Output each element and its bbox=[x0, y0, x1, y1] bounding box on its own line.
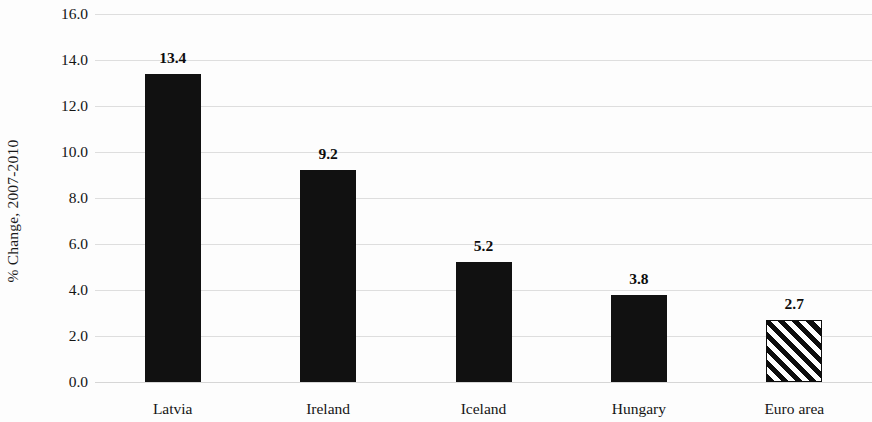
bar[interactable] bbox=[611, 295, 667, 382]
bar-value-label: 3.8 bbox=[589, 270, 689, 288]
y-axis-tick-label: 6.0 bbox=[26, 236, 88, 252]
bar-value-label: 9.2 bbox=[278, 145, 378, 163]
y-axis-tick-label: 2.0 bbox=[26, 328, 88, 344]
bar-group: 2.7Euro area bbox=[766, 0, 822, 422]
x-axis-category-label: Iceland bbox=[416, 400, 552, 418]
bar-group: 5.2Iceland bbox=[456, 0, 512, 422]
y-axis-title: % Change, 2007-2010 bbox=[0, 0, 26, 422]
x-axis-category-label: Latvia bbox=[105, 400, 241, 418]
y-axis-tick-label: 12.0 bbox=[26, 98, 88, 114]
bar-value-label: 5.2 bbox=[434, 237, 534, 255]
bar-chart: % Change, 2007-2010 16.014.012.010.08.06… bbox=[0, 0, 872, 422]
bar-group: 3.8Hungary bbox=[611, 0, 667, 422]
y-axis-tick-labels: 16.014.012.010.08.06.04.02.00.0 bbox=[26, 0, 88, 422]
plot-area: 13.4Latvia9.2Ireland5.2Iceland3.8Hungary… bbox=[95, 0, 872, 422]
y-axis-tick-label: 10.0 bbox=[26, 144, 88, 160]
y-axis-tick-label: 4.0 bbox=[26, 282, 88, 298]
x-axis-category-label: Euro area bbox=[726, 400, 862, 418]
bar-value-label: 2.7 bbox=[744, 295, 844, 313]
y-axis-tick-label: 14.0 bbox=[26, 52, 88, 68]
bar-series: 13.4Latvia9.2Ireland5.2Iceland3.8Hungary… bbox=[95, 0, 872, 422]
bar-value-label: 13.4 bbox=[123, 49, 223, 67]
bar[interactable] bbox=[766, 320, 822, 382]
bar-group: 9.2Ireland bbox=[300, 0, 356, 422]
y-axis-tick-label: 16.0 bbox=[26, 6, 88, 22]
bar[interactable] bbox=[456, 262, 512, 382]
bar[interactable] bbox=[145, 74, 201, 382]
bar[interactable] bbox=[300, 170, 356, 382]
y-axis-tick-label: 0.0 bbox=[26, 374, 88, 390]
x-axis-category-label: Hungary bbox=[571, 400, 707, 418]
bar-group: 13.4Latvia bbox=[145, 0, 201, 422]
y-axis-tick-label: 8.0 bbox=[26, 190, 88, 206]
x-axis-category-label: Ireland bbox=[260, 400, 396, 418]
